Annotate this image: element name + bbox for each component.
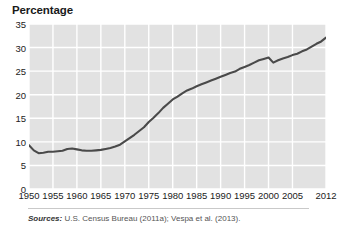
x-axis: 1950195519601965197019751980198519901995… [0, 190, 337, 204]
data-series-line [29, 38, 326, 154]
y-axis-tick-label: 30 [15, 42, 26, 53]
y-axis-tick-label: 25 [15, 66, 26, 77]
y-axis-tick-label: 35 [15, 19, 26, 30]
x-axis-tick-label: 1950 [18, 190, 39, 201]
plot-area [29, 24, 326, 189]
line-chart-svg [29, 24, 326, 189]
x-axis-tick-label: 1965 [90, 190, 111, 201]
page-title: Percentage [12, 4, 73, 16]
x-axis-tick-label: 1980 [162, 190, 183, 201]
x-axis-tick-label: 1960 [66, 190, 87, 201]
sources-text: U.S. Census Bureau (2011a); Vespa et al.… [62, 214, 240, 223]
x-axis-tick-label: 1955 [42, 190, 63, 201]
x-axis-tick-label: 1975 [138, 190, 159, 201]
y-axis-tick-label: 15 [15, 113, 26, 124]
y-axis-tick-label: 5 [21, 160, 26, 171]
y-axis: 35302520151050 [0, 24, 26, 189]
x-axis-tick-label: 1970 [114, 190, 135, 201]
sources-note: Sources: U.S. Census Bureau (2011a); Ves… [28, 213, 328, 225]
x-axis-tick-label: 1995 [234, 190, 255, 201]
vertical-gridlines [29, 24, 326, 189]
sources-label: Sources: [28, 214, 62, 223]
x-axis-tick-label: 2012 [315, 190, 336, 201]
footer-divider [28, 208, 309, 209]
x-axis-tick-label: 1985 [186, 190, 207, 201]
x-axis-tick-label: 2000 [258, 190, 279, 201]
y-axis-tick-label: 10 [15, 136, 26, 147]
x-axis-tick-label: 2005 [282, 190, 303, 201]
chart-figure: Percentage 35302520151050 19501955196019… [0, 0, 337, 244]
y-axis-tick-label: 20 [15, 89, 26, 100]
x-axis-tick-label: 1990 [210, 190, 231, 201]
horizontal-gridlines [29, 24, 326, 189]
